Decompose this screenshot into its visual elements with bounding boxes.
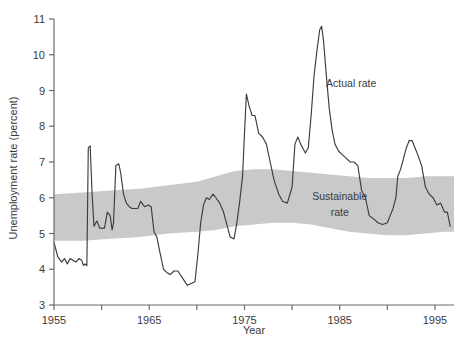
y-axis-tick-label: 11 (34, 13, 45, 25)
x-axis-tick-label: 1985 (327, 314, 351, 326)
y-axis-tick-label: 7 (39, 156, 45, 168)
chart-background (0, 0, 463, 341)
sustainable-rate-label-line1: Sustainable (312, 190, 367, 202)
chart-canvas: 3456789101119551965197519851995 Unemploy… (0, 0, 463, 341)
x-axis-tick-label: 1955 (42, 314, 66, 326)
y-axis-tick-label: 4 (39, 263, 45, 275)
y-axis-title: Unemployment rate (percent) (7, 96, 19, 239)
y-axis-tick-label: 8 (39, 120, 45, 132)
y-axis-tick-label: 10 (33, 49, 45, 61)
x-axis-title: Year (243, 324, 266, 336)
y-axis-tick-label: 9 (39, 85, 45, 97)
unemployment-rate-chart: 3456789101119551965197519851995 Unemploy… (0, 0, 463, 341)
x-axis-tick-label: 1995 (423, 314, 447, 326)
actual-rate-label: Actual rate (326, 77, 376, 89)
y-axis-tick-label: 3 (39, 299, 45, 311)
y-axis-tick-label: 6 (39, 192, 45, 204)
y-axis-tick-label: 5 (39, 228, 45, 240)
x-axis-tick-label: 1965 (137, 314, 161, 326)
sustainable-rate-label-line2: rate (331, 206, 349, 218)
